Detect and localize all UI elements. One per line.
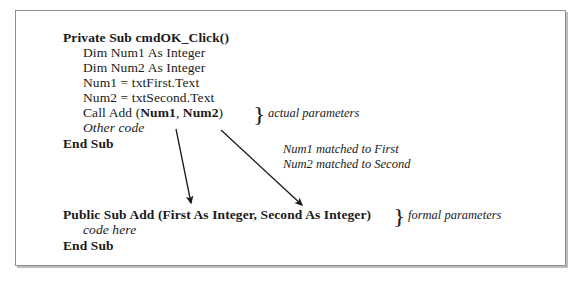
code-line-other-code: Other code <box>83 120 144 135</box>
annotation-match-num1-first: Num1 matched to First <box>283 142 399 157</box>
annotation-formal-parameters: formal parameters <box>408 208 501 223</box>
call-add-suffix: ) <box>219 105 224 120</box>
code-line-call-add: Call Add (Num1, Num2) <box>83 105 223 120</box>
code-line-assign-num2: Num2 = txtSecond.Text <box>83 90 214 105</box>
annotation-actual-parameters: actual parameters <box>268 106 359 121</box>
annotation-match-num2-second: Num2 matched to Second <box>283 157 410 172</box>
call-add-separator: , <box>176 105 183 120</box>
call-add-prefix: Call Add ( <box>83 105 140 120</box>
code-line-dim-num1: Dim Num1 As Integer <box>83 45 205 60</box>
code-line-public-sub-add-header: Public Sub Add (First As Integer, Second… <box>63 207 371 222</box>
brace-formal-parameters: } <box>393 207 405 227</box>
code-line-code-here: code here <box>83 222 136 237</box>
code-line-assign-num1: Num1 = txtFirst.Text <box>83 75 199 90</box>
call-add-arg1: Num1 <box>140 105 176 120</box>
code-line-end-sub-first: End Sub <box>63 136 114 151</box>
code-line-end-sub-second: End Sub <box>63 238 114 253</box>
code-line-dim-num2: Dim Num2 As Integer <box>83 60 205 75</box>
figure-canvas: Private Sub cmdOK_Click() Dim Num1 As In… <box>0 0 581 284</box>
code-line-private-sub-header: Private Sub cmdOK_Click() <box>63 30 229 45</box>
call-add-arg2: Num2 <box>183 105 219 120</box>
brace-actual-parameters: } <box>253 105 265 125</box>
